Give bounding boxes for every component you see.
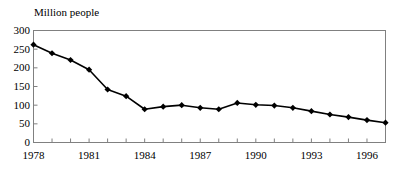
x-axis-tick-label: 1987 [189, 150, 211, 161]
x-axis-tick-label: 1981 [78, 150, 100, 161]
x-axis-tick-label: 1993 [300, 150, 322, 161]
plot-frame [34, 31, 386, 143]
plot-frame-rect [34, 31, 386, 143]
y-axis-tick-label: 0 [2, 137, 30, 148]
data-point-marker [382, 120, 388, 126]
data-point-marker [179, 102, 185, 108]
data-point-marker [290, 105, 296, 111]
data-point-marker [253, 102, 259, 108]
y-axis-tick-label: 200 [2, 62, 30, 73]
data-point-marker [30, 42, 36, 48]
data-point-marker [216, 106, 222, 112]
data-point-marker [364, 117, 370, 123]
data-point-marker [308, 108, 314, 114]
data-point-marker [67, 57, 73, 63]
y-axis-tick-label: 50 [2, 118, 30, 129]
y-axis-tick-label: 300 [2, 25, 30, 36]
series-markers [30, 42, 388, 126]
x-axis-tick-label: 1996 [356, 150, 378, 161]
y-axis-tick-label: 100 [2, 100, 30, 111]
data-point-marker [327, 111, 333, 117]
data-point-marker [197, 105, 203, 111]
x-axis-tick-label: 1984 [134, 150, 156, 161]
series-line [34, 45, 386, 123]
x-axis-ticks [34, 139, 386, 143]
data-point-marker [345, 114, 351, 120]
data-point-marker [271, 102, 277, 108]
data-point-marker [234, 100, 240, 106]
line-chart-plot [0, 0, 403, 171]
chart-figure: Million people 050100150200250300 197819… [0, 0, 403, 171]
x-axis-tick-label: 1990 [245, 150, 267, 161]
data-point-marker [160, 104, 166, 110]
y-axis-ticks [34, 31, 38, 143]
y-axis-tick-label: 250 [2, 44, 30, 55]
data-series-group [30, 42, 388, 126]
data-point-marker [49, 50, 55, 56]
x-axis-tick-label: 1978 [23, 150, 45, 161]
y-axis-tick-label: 150 [2, 81, 30, 92]
